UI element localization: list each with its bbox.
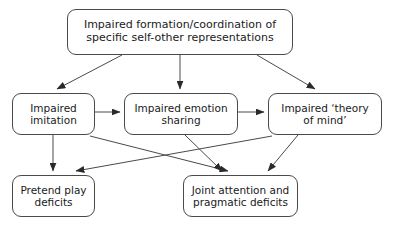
edge-root-to-imitation bbox=[57, 55, 122, 89]
edge-emotion-to-joint bbox=[185, 135, 222, 171]
node-impaired-emotion-sharing-label: Impaired emotion sharing bbox=[130, 102, 231, 127]
node-impaired-theory-of-mind[interactable]: Impaired ‘theory of mind’ bbox=[268, 93, 382, 135]
node-root[interactable]: Impaired formation/coordination of speci… bbox=[67, 9, 293, 55]
node-impaired-imitation[interactable]: Impaired imitation bbox=[12, 93, 95, 135]
node-impaired-theory-of-mind-label: Impaired ‘theory of mind’ bbox=[277, 102, 372, 127]
edge-theory-to-pretend bbox=[76, 136, 272, 171]
edge-imitation-to-joint bbox=[90, 136, 228, 171]
node-impaired-emotion-sharing[interactable]: Impaired emotion sharing bbox=[124, 93, 238, 135]
node-impaired-imitation-label: Impaired imitation bbox=[26, 102, 81, 127]
node-pretend-play-deficits[interactable]: Pretend play deficits bbox=[12, 175, 95, 217]
node-joint-attention-pragmatic-deficits[interactable]: Joint attention and pragmatic deficits bbox=[183, 175, 298, 217]
node-root-label: Impaired formation/coordination of speci… bbox=[80, 19, 280, 45]
edge-root-to-theory bbox=[257, 55, 315, 89]
flow-diagram: Impaired formation/coordination of speci… bbox=[0, 0, 393, 227]
node-pretend-play-deficits-label: Pretend play deficits bbox=[16, 184, 90, 209]
edge-theory-to-joint bbox=[268, 135, 298, 171]
node-joint-attention-pragmatic-deficits-label: Joint attention and pragmatic deficits bbox=[188, 184, 294, 209]
